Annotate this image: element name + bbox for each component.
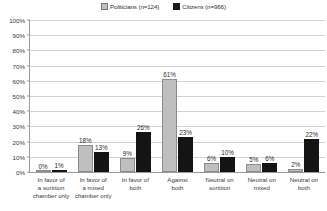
bar[interactable] bbox=[304, 139, 319, 172]
y-axis-tick-label: 60% bbox=[13, 77, 25, 84]
bar-value-label: 23% bbox=[179, 129, 192, 136]
bar-slot: 6% bbox=[204, 20, 219, 172]
x-axis-category-label: Againstboth bbox=[156, 176, 198, 192]
bar-value-label: 22% bbox=[306, 131, 319, 138]
bar-chart: Politicians (n=124) Citizens (n=966) 0%1… bbox=[0, 0, 327, 211]
bar-slot: 23% bbox=[178, 20, 193, 172]
bar-slot: 26% bbox=[136, 20, 151, 172]
bar-value-label: 5% bbox=[249, 156, 258, 163]
bar-group: 61%23% bbox=[156, 20, 198, 172]
bar-value-label: 10% bbox=[221, 149, 234, 156]
legend-item-citizens: Citizens (n=966) bbox=[173, 3, 226, 10]
bar-value-label: 0% bbox=[39, 163, 48, 170]
legend-swatch-politicians bbox=[101, 3, 108, 10]
legend-label-citizens: Citizens (n=966) bbox=[182, 3, 226, 10]
bar-group: 2%22% bbox=[283, 20, 325, 172]
bar[interactable] bbox=[220, 157, 235, 172]
bar-value-label: 18% bbox=[79, 137, 92, 144]
bar-slot: 10% bbox=[220, 20, 235, 172]
bar-group: 6%10% bbox=[199, 20, 241, 172]
bar-group: 9%26% bbox=[114, 20, 156, 172]
legend-item-politicians: Politicians (n=124) bbox=[101, 3, 159, 10]
bar[interactable] bbox=[178, 137, 193, 172]
bar-slot: 6% bbox=[262, 20, 277, 172]
bar[interactable] bbox=[262, 163, 277, 172]
bar-slot: 5% bbox=[246, 20, 261, 172]
bar-group: 5%6% bbox=[241, 20, 283, 172]
y-axis: 0%10%20%30%40%50%60%70%80%90%100% bbox=[0, 20, 30, 172]
bar-value-label: 13% bbox=[95, 144, 108, 151]
x-axis-labels: In favor ofa sortitionchamber onlyIn fav… bbox=[30, 176, 325, 211]
legend-label-politicians: Politicians (n=124) bbox=[110, 3, 159, 10]
gridline bbox=[30, 172, 325, 173]
y-axis-tick-label: 20% bbox=[13, 138, 25, 145]
y-axis-tick-label: 50% bbox=[13, 93, 25, 100]
x-axis-category-label: Neutral onboth bbox=[283, 176, 325, 192]
bar-value-label: 6% bbox=[207, 155, 216, 162]
plot-area: 0%1%18%13%9%26%61%23%6%10%5%6%2%22% bbox=[30, 20, 325, 172]
bar[interactable] bbox=[36, 170, 51, 172]
bar-group: 18%13% bbox=[72, 20, 114, 172]
bar[interactable] bbox=[162, 79, 177, 172]
bar[interactable] bbox=[52, 170, 67, 172]
y-axis-tick-label: 90% bbox=[13, 32, 25, 39]
bar-value-label: 26% bbox=[137, 124, 150, 131]
bar[interactable] bbox=[288, 169, 303, 172]
bar-value-label: 9% bbox=[123, 150, 132, 157]
bar-slot: 18% bbox=[78, 20, 93, 172]
bar-slot: 13% bbox=[94, 20, 109, 172]
bar-slot: 1% bbox=[52, 20, 67, 172]
bar[interactable] bbox=[136, 132, 151, 172]
bar-slot: 22% bbox=[304, 20, 319, 172]
x-axis-category-label: Neutral onmixed bbox=[241, 176, 283, 192]
bar-value-label: 2% bbox=[291, 161, 300, 168]
bar[interactable] bbox=[78, 145, 93, 172]
bar-slot: 9% bbox=[120, 20, 135, 172]
bar-group: 0%1% bbox=[30, 20, 72, 172]
x-axis-category-label: In favor ofa sortitionchamber only bbox=[30, 176, 72, 199]
x-axis-category-label: In favor ofa mixedchamber only bbox=[72, 176, 114, 199]
bar-slot: 0% bbox=[36, 20, 51, 172]
x-axis-category-label: Neutral onsortition bbox=[199, 176, 241, 192]
bar[interactable] bbox=[246, 164, 261, 172]
bar-value-label: 61% bbox=[163, 71, 176, 78]
bar[interactable] bbox=[120, 158, 135, 172]
bar-value-label: 1% bbox=[55, 162, 64, 169]
bar-slot: 2% bbox=[288, 20, 303, 172]
x-axis-category-label: In favor ofboth bbox=[114, 176, 156, 192]
bar[interactable] bbox=[94, 152, 109, 172]
y-axis-tick-label: 30% bbox=[13, 123, 25, 130]
y-axis-tick-label: 0% bbox=[16, 169, 25, 176]
bar[interactable] bbox=[204, 163, 219, 172]
y-axis-tick-label: 100% bbox=[9, 17, 25, 24]
bar-value-label: 6% bbox=[265, 155, 274, 162]
chart-legend: Politicians (n=124) Citizens (n=966) bbox=[0, 1, 327, 12]
y-axis-tick-label: 40% bbox=[13, 108, 25, 115]
bar-slot: 61% bbox=[162, 20, 177, 172]
y-axis-tick-label: 10% bbox=[13, 153, 25, 160]
y-axis-tick-label: 80% bbox=[13, 47, 25, 54]
legend-swatch-citizens bbox=[173, 3, 180, 10]
y-axis-tick-label: 70% bbox=[13, 62, 25, 69]
